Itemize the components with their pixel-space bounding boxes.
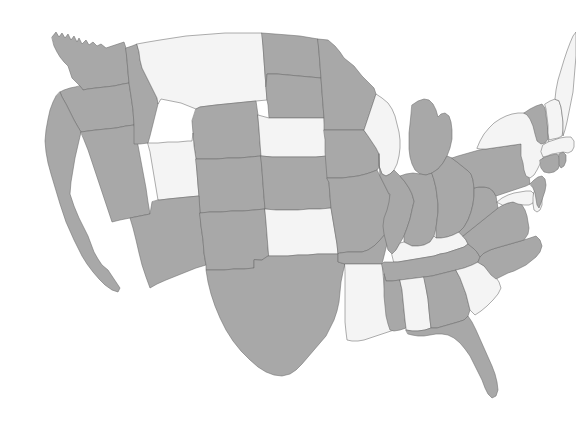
us-states-map — [0, 0, 576, 432]
state-MT[interactable] — [137, 33, 267, 109]
state-NE[interactable] — [258, 115, 327, 157]
state-MN[interactable] — [318, 39, 376, 130]
state-TX[interactable] — [206, 254, 345, 376]
state-WA[interactable] — [52, 32, 129, 90]
states-layer — [45, 32, 576, 398]
state-UT[interactable] — [148, 133, 199, 200]
state-KS[interactable] — [261, 156, 331, 210]
state-RI[interactable] — [559, 152, 566, 168]
state-SD[interactable] — [266, 74, 324, 118]
state-CO[interactable] — [196, 156, 265, 213]
state-WY[interactable] — [192, 101, 261, 159]
choropleth-map-container — [0, 0, 576, 432]
state-OK[interactable] — [262, 208, 338, 260]
